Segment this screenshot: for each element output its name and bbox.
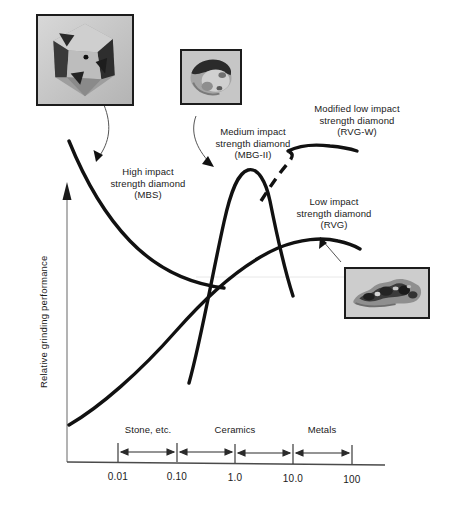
x-tick-label-4: 100 bbox=[329, 474, 375, 485]
x-tick-label-1: 0.10 bbox=[154, 471, 200, 482]
band-label-ceramics: Ceramics bbox=[203, 424, 267, 435]
band-label-metals: Metals bbox=[290, 424, 354, 435]
photo-mbg2-crystal bbox=[180, 49, 242, 105]
photo-rvg-crystal bbox=[344, 267, 430, 319]
band-label-stone: Stone, etc. bbox=[105, 424, 191, 435]
curve-mbs bbox=[69, 141, 224, 288]
x-tick-label-2: 1.0 bbox=[212, 472, 258, 483]
x-tick-label-0: 0.01 bbox=[95, 471, 141, 482]
friable-diamond-cluster-image bbox=[346, 269, 428, 317]
y-axis-arrowhead bbox=[63, 182, 72, 200]
curve-label-rvgw: Modified low impact strength diamond (RV… bbox=[292, 103, 422, 138]
chart-figure: High impact strength diamond (MBS) Mediu… bbox=[0, 0, 464, 512]
leader-line-mbs bbox=[98, 105, 109, 158]
curve-label-rvg: Low impact strength diamond (RVG) bbox=[274, 196, 394, 231]
photo-mbs-crystal bbox=[36, 14, 134, 106]
x-tick-label-3: 10.0 bbox=[270, 473, 316, 484]
curve-label-mbs: High impact strength diamond (MBS) bbox=[88, 166, 208, 201]
x-axis-line bbox=[67, 462, 385, 465]
faceted-diamond-crystal-image bbox=[38, 16, 132, 104]
y-axis-label: Relative grinding performance bbox=[38, 255, 49, 388]
blocky-diamond-crystal-image bbox=[182, 51, 240, 103]
